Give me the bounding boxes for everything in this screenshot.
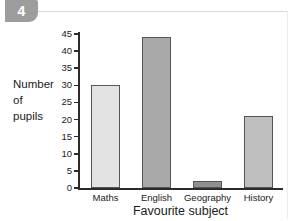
y-tick-label-wrap-30: 30 <box>48 80 72 90</box>
y-tick-label-wrap-25: 25 <box>48 97 72 107</box>
bar-history <box>244 116 273 188</box>
y-tick-label-wrap-35: 35 <box>48 63 72 73</box>
y-tick-label-wrap-0: 0 <box>48 183 72 193</box>
y-tick-45 <box>74 33 78 35</box>
x-axis-line <box>78 188 283 190</box>
y-tick-label-wrap-10: 10 <box>48 149 72 159</box>
y-tick-label-5: 5 <box>50 166 72 176</box>
y-tick-label-40: 40 <box>50 46 72 56</box>
y-tick-label-25: 25 <box>50 97 72 107</box>
x-label-history: History <box>233 192 284 204</box>
y-axis-line <box>78 32 80 189</box>
y-tick-35 <box>74 67 78 69</box>
x-label-english: English <box>131 192 182 204</box>
y-tick-10 <box>74 153 78 155</box>
y-tick-25 <box>74 102 78 104</box>
y-tick-label-10: 10 <box>50 149 72 159</box>
y-tick-0 <box>74 187 78 189</box>
y-tick-label-45: 45 <box>50 29 72 39</box>
y-tick-label-wrap-15: 15 <box>48 132 72 142</box>
y-tick-label-wrap-45: 45 <box>48 29 72 39</box>
y-tick-15 <box>74 136 78 138</box>
y-tick-label-20: 20 <box>50 115 72 125</box>
y-tick-label-30: 30 <box>50 80 72 90</box>
bar-english <box>142 37 171 188</box>
bar-geography <box>193 181 222 188</box>
y-tick-30 <box>74 85 78 87</box>
y-tick-label-15: 15 <box>50 132 72 142</box>
y-tick-label-wrap-5: 5 <box>48 166 72 176</box>
y-tick-label-35: 35 <box>50 63 72 73</box>
y-tick-5 <box>74 170 78 172</box>
y-tick-label-wrap-40: 40 <box>48 46 72 56</box>
x-label-maths: Maths <box>80 192 131 204</box>
y-tick-40 <box>74 50 78 52</box>
bar-maths <box>91 85 120 188</box>
bar-chart: Number of pupils 051015202530354045 Math… <box>0 0 290 221</box>
worksheet-question-panel: 4 Number of pupils 051015202530354045 Ma… <box>0 0 290 221</box>
x-axis-title: Favourite subject <box>78 204 283 218</box>
x-label-geography: Geography <box>182 192 233 204</box>
y-tick-20 <box>74 119 78 121</box>
y-tick-label-0: 0 <box>50 183 72 193</box>
y-tick-label-wrap-20: 20 <box>48 115 72 125</box>
